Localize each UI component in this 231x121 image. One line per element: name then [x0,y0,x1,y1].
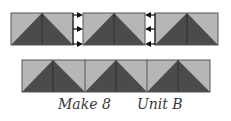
top-block-2 [83,13,145,45]
arrows-right [73,12,83,47]
top-block-3 [155,13,218,45]
quilt-diagram [0,0,231,121]
arrows-left [145,12,155,47]
bottom-row [22,60,210,92]
top-block-1 [11,13,73,45]
top-row [11,13,218,45]
unit-label-caption: Unit B [137,96,183,112]
make-count-caption: Make 8 [58,96,111,112]
